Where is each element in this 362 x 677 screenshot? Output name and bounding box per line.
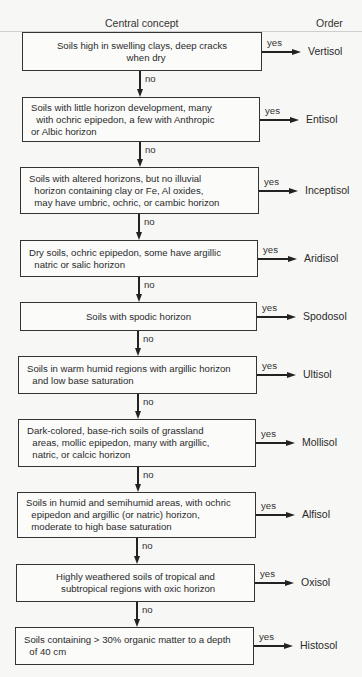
yes-label: yes bbox=[261, 428, 276, 439]
no-label: no bbox=[145, 73, 156, 84]
concept-text-line: horizon containing clay or Fe, Al oxides… bbox=[29, 185, 250, 197]
concept-text-line: moderate to high base saturation bbox=[26, 521, 247, 533]
concept-text-line: Soils with little horizon development, m… bbox=[31, 102, 251, 114]
concept-text-line: Soils with altered horizons, but no illu… bbox=[29, 173, 250, 185]
concept-text-line: epipedon and argillic (or natric) horizo… bbox=[26, 509, 247, 521]
concept-text-line: or Albic horizon bbox=[31, 126, 251, 138]
no-label: no bbox=[142, 604, 153, 615]
yes-arrow-line bbox=[256, 514, 287, 516]
yes-arrow-line bbox=[257, 316, 288, 318]
concept-box: Soils with little horizon development, m… bbox=[22, 97, 260, 142]
order-mollisol: Mollisol bbox=[302, 436, 337, 448]
concept-box: Soils in warm humid regions with argilli… bbox=[18, 356, 257, 394]
concept-text-line: Dark-colored, base-rich soils of grassla… bbox=[27, 425, 247, 437]
no-label: no bbox=[144, 279, 155, 290]
no-label: no bbox=[145, 144, 156, 155]
concept-text-line: Soils with spodic horizon bbox=[29, 311, 248, 323]
yes-arrow-line bbox=[256, 442, 287, 444]
arrow-right-icon bbox=[284, 643, 293, 649]
no-label: no bbox=[144, 216, 155, 227]
no-arrow-line bbox=[138, 214, 140, 233]
concept-text-line: Dry soils, ochric epipedon, some have ar… bbox=[29, 247, 249, 259]
yes-arrow-line bbox=[254, 645, 285, 647]
concept-box: Soils with altered horizons, but no illu… bbox=[20, 167, 259, 214]
no-arrow-line bbox=[138, 277, 140, 295]
arrow-right-icon bbox=[292, 49, 301, 55]
concept-text-line: and low base saturation bbox=[27, 375, 248, 387]
yes-label: yes bbox=[267, 37, 282, 48]
no-arrow-line bbox=[137, 331, 139, 349]
arrow-down-icon bbox=[136, 294, 142, 302]
concept-text-line: Soils high in swelling clays, deep crack… bbox=[31, 40, 253, 52]
concept-text-line: natric, or calcic horizon bbox=[27, 449, 247, 461]
no-label: no bbox=[143, 469, 154, 480]
concept-box: Soils with spodic horizon bbox=[20, 302, 257, 331]
concept-box: Soils in humid and semihumid areas, with… bbox=[17, 492, 256, 538]
arrow-down-icon bbox=[134, 556, 140, 564]
no-arrow-line bbox=[139, 142, 141, 160]
arrow-right-icon bbox=[289, 188, 298, 194]
concept-box: Soils containing > 30% organic matter to… bbox=[15, 627, 254, 665]
yes-label: yes bbox=[262, 360, 277, 371]
concept-text-line: may have umbric, ochric, or cambic horiz… bbox=[29, 197, 250, 209]
yes-arrow-line bbox=[255, 582, 286, 584]
order-histosol: Histosol bbox=[300, 639, 337, 651]
yes-label: yes bbox=[259, 631, 274, 642]
order-inceptisol: Inceptisol bbox=[305, 184, 349, 196]
yes-arrow-line bbox=[260, 119, 291, 121]
concept-text-line: Highly weathered soils of tropical and bbox=[25, 571, 246, 583]
yes-label: yes bbox=[265, 105, 280, 116]
concept-text-line: Soils containing > 30% organic matter to… bbox=[24, 634, 245, 646]
arrow-down-icon bbox=[135, 348, 141, 356]
concept-text-line: with ochric epipedon, a few with Anthrop… bbox=[31, 114, 251, 126]
arrow-down-icon bbox=[135, 411, 141, 419]
yes-arrow-line bbox=[262, 51, 293, 53]
concept-box: Dry soils, ochric epipedon, some have ar… bbox=[20, 240, 258, 277]
order-alfisol: Alfisol bbox=[302, 508, 330, 520]
no-label: no bbox=[142, 540, 153, 551]
yes-label: yes bbox=[260, 568, 275, 579]
no-label: no bbox=[143, 396, 154, 407]
header-central-concept: Central concept bbox=[105, 17, 179, 29]
concept-box: Soils high in swelling clays, deep crack… bbox=[22, 32, 262, 71]
no-arrow-line bbox=[139, 71, 141, 90]
arrow-right-icon bbox=[287, 314, 296, 320]
concept-text-line: Soils in warm humid regions with argilli… bbox=[27, 363, 248, 375]
no-arrow-line bbox=[137, 467, 139, 485]
concept-box: Dark-colored, base-rich soils of grassla… bbox=[18, 419, 256, 467]
yes-label: yes bbox=[263, 244, 278, 255]
arrow-down-icon bbox=[134, 619, 140, 627]
concept-text-line: areas, mollic epipedon, many with argill… bbox=[27, 437, 247, 449]
yes-label: yes bbox=[261, 500, 276, 511]
arrow-down-icon bbox=[136, 232, 142, 240]
arrow-right-icon bbox=[286, 512, 295, 518]
concept-text-line: natric or salic horizon bbox=[29, 259, 249, 271]
order-oxisol: Oxisol bbox=[301, 576, 330, 588]
yes-label: yes bbox=[264, 176, 279, 187]
order-spodosol: Spodosol bbox=[303, 310, 347, 322]
yes-arrow-line bbox=[259, 190, 290, 192]
yes-label: yes bbox=[262, 302, 277, 313]
arrow-down-icon bbox=[135, 484, 141, 492]
order-ultisol: Ultisol bbox=[303, 368, 332, 380]
concept-box: Highly weathered soils of tropical and s… bbox=[16, 564, 255, 602]
yes-arrow-line bbox=[257, 374, 288, 376]
concept-text-line: subtropical regions with oxic horizon bbox=[25, 583, 246, 595]
order-entisol: Entisol bbox=[306, 113, 338, 125]
arrow-down-icon bbox=[137, 89, 143, 97]
arrow-right-icon bbox=[287, 372, 296, 378]
concept-text-line: when dry bbox=[31, 52, 253, 64]
no-arrow-line bbox=[137, 394, 139, 412]
header-order: Order bbox=[316, 17, 343, 29]
arrow-right-icon bbox=[290, 117, 299, 123]
arrow-down-icon bbox=[137, 159, 143, 167]
concept-text-line: Soils in humid and semihumid areas, with… bbox=[26, 497, 247, 509]
no-label: no bbox=[143, 333, 154, 344]
arrow-right-icon bbox=[288, 256, 297, 262]
no-arrow-line bbox=[136, 538, 138, 557]
concept-text-line: of 40 cm bbox=[24, 646, 245, 658]
arrow-right-icon bbox=[285, 580, 294, 586]
order-vertisol: Vertisol bbox=[308, 45, 342, 57]
order-aridisol: Aridisol bbox=[304, 252, 338, 264]
arrow-right-icon bbox=[286, 440, 295, 446]
